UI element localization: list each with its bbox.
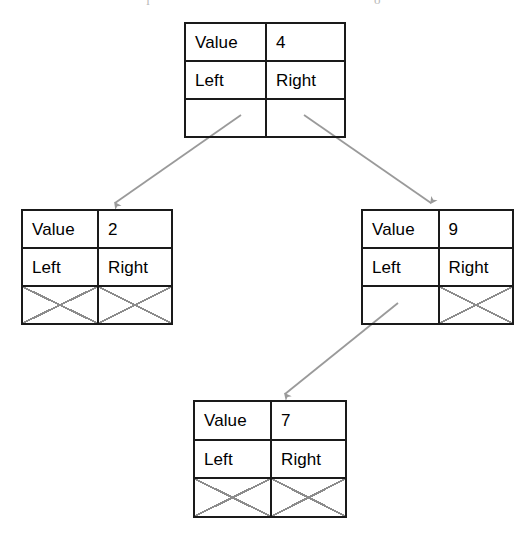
node-right-null-marker[interactable] — [97, 287, 171, 323]
node-value: 9 — [438, 211, 513, 247]
node-left-label: Left — [23, 249, 97, 285]
tree-node-left-child[interactable]: Value 2 Left Right — [21, 209, 173, 325]
node-right-label: Right — [265, 62, 344, 98]
node-left-null-marker[interactable] — [195, 479, 270, 516]
tree-node-root[interactable]: Value 4 Left Right — [184, 22, 346, 138]
scan-artifact: ľ — [146, 0, 151, 7]
node-row-value: Value 9 — [363, 211, 512, 247]
node-row-pointer-labels: Left Right — [195, 439, 345, 478]
node-row-value: Value 2 — [23, 211, 171, 247]
node-value-label: Value — [363, 211, 438, 247]
node-right-null-marker[interactable] — [438, 287, 513, 323]
node-right-label: Right — [438, 249, 513, 285]
node-left-pointer-slot[interactable] — [363, 287, 438, 323]
node-left-label: Left — [195, 441, 270, 478]
node-right-pointer-slot[interactable] — [265, 100, 344, 136]
node-right-label: Right — [270, 441, 345, 478]
node-row-value: Value 7 — [195, 402, 345, 439]
node-row-pointer-labels: Left Right — [186, 60, 344, 98]
node-right-null-marker[interactable] — [270, 479, 345, 516]
node-left-null-marker[interactable] — [23, 287, 97, 323]
node-value-label: Value — [23, 211, 97, 247]
node-row-value: Value 4 — [186, 24, 344, 60]
node-left-label: Left — [186, 62, 265, 98]
scan-artifact: o — [374, 0, 381, 6]
node-row-pointer-slots — [186, 98, 344, 136]
node-right-label: Right — [97, 249, 171, 285]
node-row-pointer-slots — [23, 285, 171, 323]
node-left-label: Left — [363, 249, 438, 285]
node-value: 4 — [265, 24, 344, 60]
node-row-pointer-slots — [195, 477, 345, 516]
binary-tree-diagram: ľ o Value 4 Left Right Value 2 — [0, 0, 529, 543]
tree-node-right-child[interactable]: Value 9 Left Right — [361, 209, 514, 325]
node-value-label: Value — [186, 24, 265, 60]
tree-node-grandchild[interactable]: Value 7 Left Right — [193, 400, 347, 518]
node-row-pointer-slots — [363, 285, 512, 323]
node-value: 2 — [97, 211, 171, 247]
node-left-pointer-slot[interactable] — [186, 100, 265, 136]
node-row-pointer-labels: Left Right — [23, 247, 171, 285]
node-value: 7 — [270, 402, 345, 439]
node-value-label: Value — [195, 402, 270, 439]
node-row-pointer-labels: Left Right — [363, 247, 512, 285]
